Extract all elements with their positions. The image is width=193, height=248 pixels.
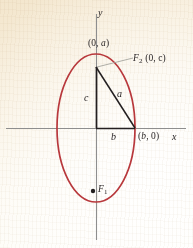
focus-upper-leader-line <box>97 58 133 67</box>
segment-label-a: a <box>117 89 122 99</box>
focus-lower-label-subscript: 1 <box>104 188 108 196</box>
focus-lower-dot <box>91 189 95 193</box>
point-label-top-vertex: (0, a) <box>88 39 109 49</box>
point-label-focus-upper: F2 (0, c) <box>133 54 166 65</box>
point-label-focus-lower: F1 <box>98 185 108 196</box>
focus-upper-label-rest: (0, c) <box>143 53 166 63</box>
segment-label-b: b <box>111 132 116 142</box>
y-axis-label: y <box>98 8 103 18</box>
right-vertex-label-suffix: , 0) <box>146 131 159 141</box>
segment-a-line <box>96 67 135 128</box>
ellipse-figure: y x (0, a) F2 (0, c) (b, 0) F1 c b a <box>0 0 193 248</box>
top-vertex-label-suffix: ) <box>106 38 109 48</box>
point-label-right-vertex: (b, 0) <box>138 132 159 142</box>
x-axis-label: x <box>172 132 177 142</box>
segment-label-c: c <box>84 93 89 103</box>
top-vertex-label-prefix: (0, <box>88 38 101 48</box>
